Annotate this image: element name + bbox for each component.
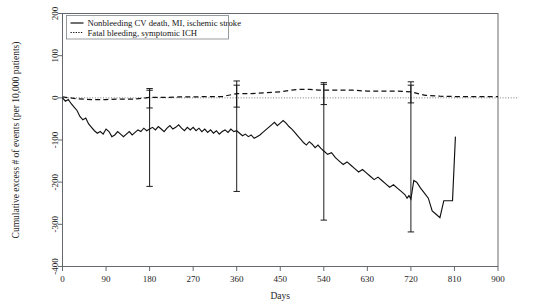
- x-tick-label: 0: [60, 274, 65, 284]
- x-tick-label: 720: [404, 274, 418, 284]
- x-tick-label: 270: [186, 274, 200, 284]
- data-series: [63, 89, 499, 217]
- x-tick-label: 630: [361, 274, 375, 284]
- chart-canvas: 090180270360450540630720810900 -400-300-…: [0, 0, 537, 308]
- x-tick-label: 90: [102, 274, 112, 284]
- x-axis-ticks: [63, 267, 499, 272]
- y-tick-label: -300: [50, 216, 60, 233]
- y-axis-title: Cumulative excess # of events (per 10,00…: [11, 42, 22, 239]
- y-tick-label: -100: [50, 131, 60, 148]
- legend-label: Nonbleeding CV death, MI, ischemic strok…: [88, 18, 242, 28]
- error-bar: [408, 82, 414, 232]
- x-tick-label: 810: [448, 274, 462, 284]
- plot-frame: [63, 14, 499, 267]
- x-tick-label: 450: [274, 274, 288, 284]
- chart-figure: 090180270360450540630720810900 -400-300-…: [0, 0, 537, 308]
- error-bars: [146, 81, 414, 232]
- error-bar: [234, 85, 240, 107]
- x-tick-label: 180: [143, 274, 157, 284]
- error-bar: [408, 85, 414, 103]
- y-tick-label: -400: [50, 258, 60, 275]
- y-tick-label: 0: [50, 95, 60, 100]
- x-tick-label: 540: [317, 274, 331, 284]
- series-line-0: [63, 98, 456, 218]
- y-tick-label: 100: [50, 48, 60, 62]
- x-tick-label: 360: [230, 274, 244, 284]
- error-bar: [321, 84, 327, 104]
- x-axis-title: Days: [270, 291, 290, 301]
- y-axis-tick-labels: -400-300-200-1000100200: [50, 6, 60, 275]
- x-axis-tick-labels: 090180270360450540630720810900: [60, 274, 505, 284]
- legend-label: Fatal bleeding, symptomic ICH: [88, 28, 198, 38]
- chart-legend: Nonbleeding CV death, MI, ischemic strok…: [67, 16, 242, 40]
- y-tick-label: -200: [50, 173, 60, 190]
- x-tick-label: 900: [491, 274, 505, 284]
- y-tick-label: 200: [50, 6, 60, 20]
